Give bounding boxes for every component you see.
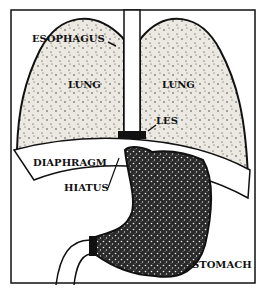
les-sphincter: [118, 131, 146, 139]
esophagus-tube: [124, 10, 140, 135]
label-diaphragm: DIAPHRAGM: [33, 157, 107, 168]
label-esophagus: ESOPHAGUS: [32, 33, 105, 44]
label-stomach: STOMACH: [192, 259, 252, 270]
label-les: LES: [156, 115, 178, 126]
pylorus: [89, 236, 97, 256]
label-lung-left: LUNG: [68, 79, 101, 90]
label-hiatus: HIATUS: [64, 182, 109, 193]
label-lung-right: LUNG: [162, 79, 195, 90]
anatomy-diagram: ESOPHAGUS LUNG LUNG LES DIAPHRAGM HIATUS…: [0, 0, 265, 291]
